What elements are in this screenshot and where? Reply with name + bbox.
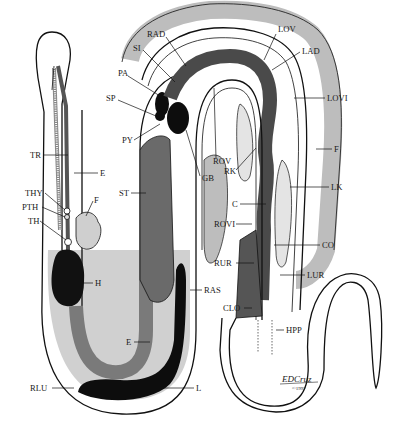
label-pa: PA [118,68,129,78]
label-ras: RAS [204,285,221,295]
label-tr: TR [30,150,41,160]
label-rk: RK [224,166,237,176]
label-c: C [232,199,238,209]
stomach [140,136,174,302]
anatomy-diagram: TR E THY F PTH TH H E RLU L RAS RAD SI P… [0,0,410,430]
label-l: L [196,383,201,393]
trachea [52,66,60,230]
label-e-lower: E [126,337,131,347]
label-h: H [95,278,101,288]
artist-signature: EDCruz ©1997 [280,374,318,391]
label-rur: RUR [214,258,232,268]
label-rovi: ROVI [214,219,235,229]
label-lov: LOV [278,24,296,34]
label-clo: CLO [223,303,240,313]
label-pth: PTH [22,202,38,212]
copyright-text: ©1997 [292,386,306,391]
right-kidney [237,104,253,181]
label-th: TH [28,216,39,226]
label-f-right: F [334,144,339,154]
label-co: CO [322,240,334,250]
diagram-canvas: TR E THY F PTH TH H E RLU L RAS RAD SI P… [0,0,410,430]
label-lur: LUR [307,270,324,280]
spleen [155,111,165,121]
heart [52,249,85,306]
label-lad: LAD [302,46,320,56]
label-rad: RAD [147,29,165,39]
label-hpp: HPP [286,325,302,335]
gall-bladder [167,102,189,134]
label-rlu: RLU [30,383,48,393]
label-lk: LK [331,182,343,192]
fat-body-left [76,212,101,249]
label-st: ST [119,188,130,198]
label-rov: ROV [213,156,232,166]
label-sp: SP [106,93,116,103]
label-e-upper: E [100,168,105,178]
label-gb: GB [202,173,214,183]
label-si: SI [133,43,141,53]
label-f-left: F [94,195,99,205]
label-py: PY [122,135,133,145]
left-kidney [275,160,292,267]
label-thy: THY [25,188,43,198]
label-lovi: LOVI [327,93,348,103]
hemipenes [258,320,272,356]
